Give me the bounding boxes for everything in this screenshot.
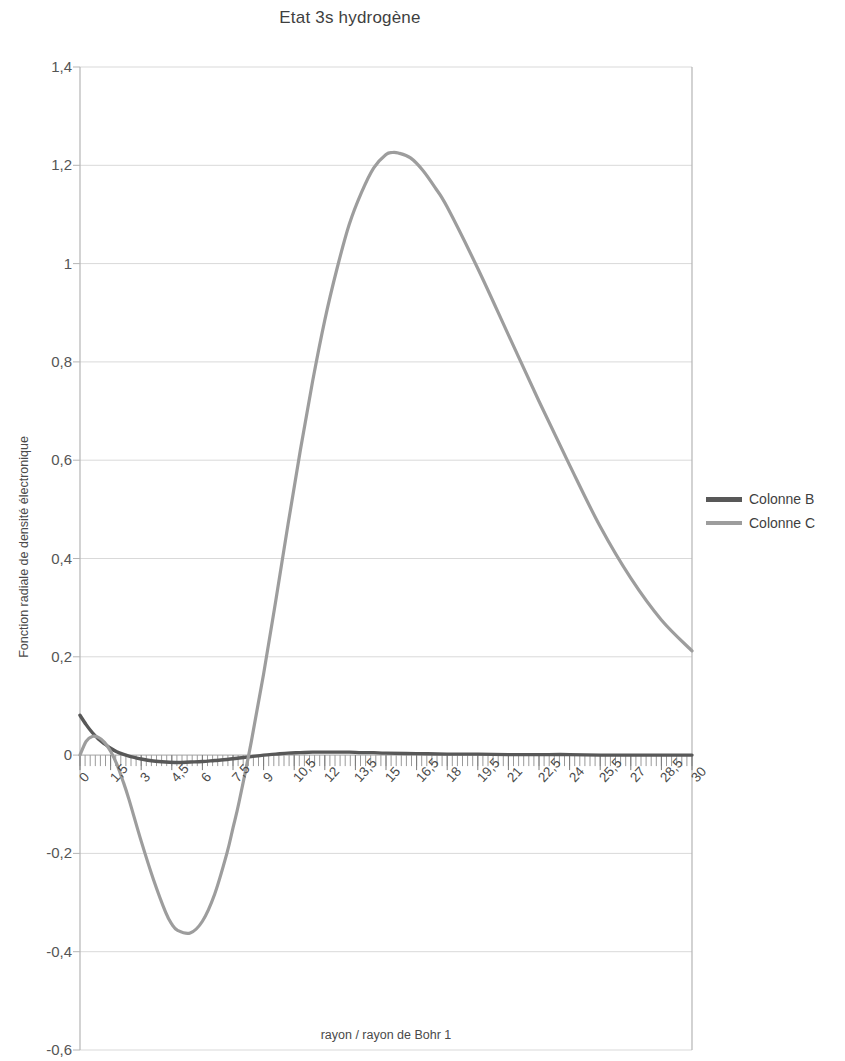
x-tick-label: 21	[504, 764, 525, 785]
x-tick-label: 6	[198, 770, 214, 786]
x-tick-label: 19,5	[474, 756, 503, 786]
x-tick-label: 13,5	[351, 756, 380, 786]
legend-label: Colonne B	[749, 491, 814, 507]
x-tick-label: 1,5	[107, 761, 131, 785]
x-tick-label: 15	[382, 764, 403, 785]
x-tick-label: 24	[566, 764, 587, 785]
chart-legend: Colonne BColonne C	[706, 487, 841, 535]
x-tick-label: 7,5	[229, 761, 253, 785]
legend-item[interactable]: Colonne C	[706, 511, 841, 535]
legend-item[interactable]: Colonne B	[706, 487, 841, 511]
x-tick-label: 27	[627, 764, 648, 785]
x-tick-label: 9	[260, 770, 276, 786]
x-tick-label: 30	[688, 764, 709, 785]
x-tick-label: 3	[137, 770, 153, 786]
x-tick-label: 4,5	[168, 761, 192, 785]
legend-label: Colonne C	[749, 515, 815, 531]
x-axis-title: rayon / rayon de Bohr 1	[80, 1028, 692, 1042]
x-tick-label: 16,5	[413, 756, 442, 786]
x-tick-label: 18	[443, 764, 464, 785]
x-tick-label: 12	[321, 764, 342, 785]
y-axis-title: Fonction radiale de densité électronique	[17, 377, 31, 717]
legend-swatch-icon	[706, 521, 742, 525]
legend-swatch-icon	[706, 497, 742, 502]
x-tick-label: 22,5	[535, 756, 564, 786]
x-tick-label: 28,5	[657, 756, 686, 786]
x-tick-label: 0	[76, 770, 92, 786]
x-tick-label: 25,5	[596, 756, 625, 786]
x-tick-label: 10,5	[290, 756, 319, 786]
chart-container: Etat 3s hydrogène 1,41,210,80,60,40,20-0…	[0, 0, 845, 1061]
